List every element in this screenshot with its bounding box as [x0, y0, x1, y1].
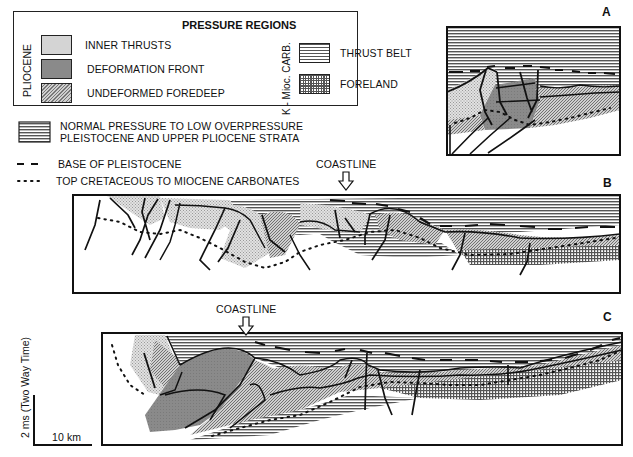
- k-mioc-carb-group-label: K - Mioc. CARB.: [281, 42, 292, 115]
- panel-letter-c: C: [603, 310, 612, 324]
- normal-pressure-swatch: [19, 122, 50, 142]
- coastline-label-b: COASTLINE: [316, 158, 376, 170]
- swatch-thrust-belt: [299, 43, 330, 63]
- legend-normal-pressure-line1: NORMAL PRESSURE TO LOW OVERPRESSURE: [60, 120, 303, 132]
- swatch-deformation-front: [41, 59, 72, 79]
- panel-letter-a: A: [602, 5, 611, 19]
- legend-normal-pressure-line2: PLEISTOCENE AND UPPER PLIOCENE STRATA: [60, 132, 299, 144]
- coastline-label-c: COASTLINE: [216, 303, 276, 315]
- panel-a: [447, 27, 620, 155]
- swatch-inner-thrusts: [41, 35, 72, 55]
- legend-undeformed-foredeep: UNDEFORMED FOREDEEP: [87, 87, 225, 99]
- legend-box: PRESSURE REGIONS PLIOCENE INNER THRUSTS …: [13, 11, 358, 106]
- pliocene-group-label: PLIOCENE: [21, 44, 33, 97]
- swatch-undeformed-foredeep: [41, 83, 72, 103]
- panel-c: [102, 333, 622, 445]
- swatch-foreland: [299, 74, 330, 94]
- legend-thrust-belt: THRUST BELT: [340, 47, 412, 59]
- vertical-scale-label: 2 ms (Two Way Time): [19, 337, 31, 438]
- coastline-arrow-b: [339, 172, 353, 190]
- panel-b: [73, 195, 620, 293]
- panel-letter-b: B: [603, 176, 612, 190]
- legend-title: PRESSURE REGIONS: [182, 19, 296, 31]
- legend-top-carbonates: TOP CRETACEOUS TO MIOCENE CARBONATES: [56, 175, 299, 187]
- legend-foreland: FORELAND: [340, 78, 398, 90]
- legend-inner-thrusts: INNER THRUSTS: [85, 39, 171, 51]
- horizontal-scale-label: 10 km: [52, 431, 81, 443]
- legend-deformation-front: DEFORMATION FRONT: [87, 63, 205, 75]
- legend-base-pleistocene: BASE OF PLEISTOCENE: [58, 158, 182, 170]
